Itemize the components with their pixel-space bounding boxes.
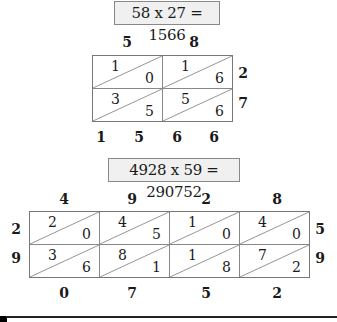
multiplicand-digit: 4 (57, 191, 71, 207)
lattice-cell: 4 5 (100, 212, 170, 245)
cell-tens: 1 (188, 215, 197, 229)
equation-box-1: 58 x 27 = 1566 (114, 1, 220, 25)
result-digit: 5 (132, 129, 146, 145)
multiplier-digit: 7 (236, 95, 250, 111)
result-digit: 7 (125, 285, 139, 301)
cell-tens: 4 (258, 215, 267, 229)
cell-tens: 3 (111, 92, 120, 106)
equation-box-2: 4928 x 59 = 290752 (108, 158, 240, 182)
cell-tens: 5 (181, 92, 190, 106)
lattice-cell: 1 6 (163, 56, 232, 89)
result-digit: 2 (270, 285, 284, 301)
horizontal-rule (6, 316, 337, 318)
result-digit: 1 (94, 129, 108, 145)
lattice-grid-1: 1 0 1 6 3 5 5 6 (92, 55, 233, 122)
lattice-cell: 4 0 (240, 212, 309, 245)
cell-tens: 1 (181, 59, 190, 73)
multiplier-digit: 2 (236, 65, 250, 81)
lattice-cell: 2 0 (30, 212, 100, 245)
multiplicand-digit: 8 (270, 191, 284, 207)
cell-ones: 8 (222, 260, 231, 274)
result-digit: 0 (57, 285, 71, 301)
multiplier-digit-right: 9 (313, 250, 327, 266)
cell-tens: 8 (118, 248, 127, 262)
cell-ones: 2 (292, 260, 301, 274)
cell-ones: 6 (215, 71, 224, 85)
lattice-cell: 8 1 (100, 245, 170, 277)
cell-ones: 6 (82, 260, 91, 274)
multiplier-digit-left: 9 (9, 250, 23, 266)
multiplicand-digit: 8 (187, 34, 201, 50)
multiplicand-digit: 9 (125, 191, 139, 207)
cell-tens: 1 (188, 248, 197, 262)
lattice-cell: 1 0 (93, 56, 163, 89)
result-digit: 5 (199, 285, 213, 301)
cell-ones: 0 (82, 227, 91, 241)
cell-ones: 5 (145, 104, 154, 118)
multiplier-digit-right: 5 (313, 221, 327, 237)
cell-tens: 3 (48, 248, 57, 262)
cell-ones: 6 (215, 104, 224, 118)
lattice-cell: 5 6 (163, 89, 232, 121)
result-digit: 6 (207, 129, 221, 145)
cell-ones: 1 (152, 260, 161, 274)
multiplier-digit-left: 2 (9, 221, 23, 237)
lattice-cell: 1 8 (170, 245, 240, 277)
cell-ones: 5 (152, 227, 161, 241)
multiplicand-digit: 2 (199, 191, 213, 207)
cell-tens: 1 (111, 59, 120, 73)
lattice-cell: 3 6 (30, 245, 100, 277)
lattice-cell: 1 0 (170, 212, 240, 245)
cell-ones: 0 (292, 227, 301, 241)
lattice-cell: 3 5 (93, 89, 163, 121)
cell-tens: 7 (258, 248, 267, 262)
cell-ones: 0 (222, 227, 231, 241)
result-digit: 6 (170, 129, 184, 145)
cell-tens: 4 (118, 215, 127, 229)
multiplicand-digit: 5 (120, 34, 134, 50)
cell-tens: 2 (48, 215, 57, 229)
cell-ones: 0 (145, 71, 154, 85)
lattice-grid-2: 2 0 4 5 1 0 4 0 3 6 8 1 1 8 7 2 (29, 211, 310, 278)
lattice-cell: 7 2 (240, 245, 309, 277)
